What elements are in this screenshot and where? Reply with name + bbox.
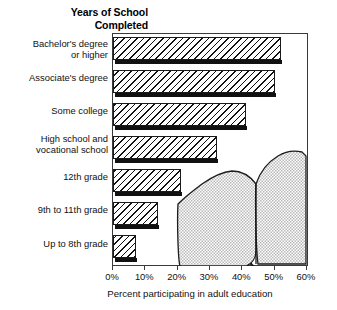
y-axis-label: 9th to 11th grade bbox=[0, 205, 108, 216]
x-axis-tick-label: 20% bbox=[162, 271, 192, 282]
page-title: Years of School Completed bbox=[26, 6, 148, 31]
bar-shadow bbox=[115, 258, 137, 262]
y-axis-label: Some college bbox=[0, 106, 108, 117]
y-axis-label: High school and vocational school bbox=[0, 134, 108, 156]
y-axis-label: Up to 8th grade bbox=[0, 239, 108, 250]
chart-figure: Years of School Completed bbox=[0, 0, 337, 310]
bar-associates-degree bbox=[113, 70, 275, 93]
bar-shadow bbox=[115, 192, 182, 196]
x-axis-tick bbox=[241, 266, 242, 270]
x-axis: 0%10%20%30%40%50%60% bbox=[112, 266, 308, 288]
bar-12th-grade bbox=[113, 169, 181, 192]
x-axis-tick-label: 0% bbox=[97, 271, 127, 282]
bar-shadow bbox=[115, 93, 276, 97]
x-axis-tick bbox=[274, 266, 275, 270]
x-axis-tick-label: 30% bbox=[194, 271, 224, 282]
x-axis-tick-label: 40% bbox=[226, 271, 256, 282]
y-axis-label: Bachelor's degree or higher bbox=[0, 39, 108, 61]
bar-bachelors-degree-or-higher bbox=[113, 37, 281, 60]
x-axis-title: Percent participating in adult education bbox=[60, 288, 320, 299]
x-axis-tick bbox=[306, 266, 307, 270]
x-axis-tick bbox=[144, 266, 145, 270]
bar-shadow bbox=[115, 225, 159, 229]
y-axis-label: 12th grade bbox=[0, 172, 108, 183]
x-axis-tick bbox=[112, 266, 113, 270]
bar-9th-to-11th-grade bbox=[113, 202, 158, 225]
bar-shadow bbox=[115, 126, 247, 130]
y-axis-label: Associate's degree bbox=[0, 73, 108, 84]
y-axis-labels: Bachelor's degree or higher Associate's … bbox=[0, 34, 108, 265]
x-axis-tick-label: 60% bbox=[291, 271, 321, 282]
x-axis-tick bbox=[209, 266, 210, 270]
bar-shadow bbox=[115, 159, 218, 163]
x-axis-tick-label: 50% bbox=[259, 271, 289, 282]
bar-high-school-and-vocational-school bbox=[113, 136, 217, 159]
bar-up-to-8th-grade bbox=[113, 235, 136, 258]
bars-container bbox=[113, 34, 307, 265]
x-axis-tick-label: 10% bbox=[129, 271, 159, 282]
bar-shadow bbox=[115, 60, 282, 64]
bar-some-college bbox=[113, 103, 246, 126]
x-axis-tick bbox=[177, 266, 178, 270]
